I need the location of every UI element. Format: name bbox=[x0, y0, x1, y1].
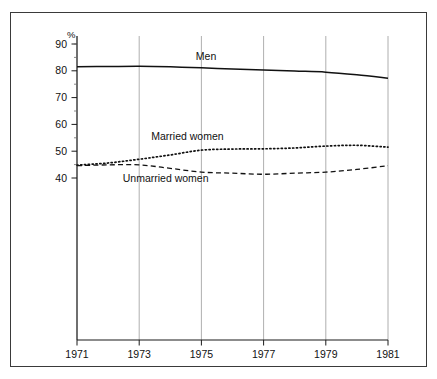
vertical-gridlines bbox=[77, 36, 388, 340]
data-series-group bbox=[77, 66, 388, 174]
y-tick-label-40: 40 bbox=[55, 172, 67, 184]
series-label-married-women: Married women bbox=[151, 130, 224, 142]
x-tick-label-1971: 1971 bbox=[65, 348, 89, 360]
x-tick-label-1973: 1973 bbox=[128, 348, 152, 360]
series-label-men: Men bbox=[196, 50, 217, 62]
series-inline-labels: MenMarried womenUnmarried women bbox=[123, 50, 224, 184]
series-line-married-women bbox=[77, 145, 388, 165]
x-tick-label-1981: 1981 bbox=[376, 348, 400, 360]
series-label-unmarried-women: Unmarried women bbox=[123, 172, 209, 184]
y-axis-ticks bbox=[72, 44, 78, 178]
y-axis-tick-labels: 405060708090 bbox=[55, 38, 67, 184]
y-tick-label-50: 50 bbox=[55, 145, 67, 157]
x-tick-label-1977: 1977 bbox=[252, 348, 276, 360]
y-tick-label-80: 80 bbox=[55, 64, 67, 76]
y-tick-label-70: 70 bbox=[55, 91, 67, 103]
x-tick-label-1979: 1979 bbox=[314, 348, 338, 360]
y-tick-label-90: 90 bbox=[55, 38, 67, 50]
y-tick-label-60: 60 bbox=[55, 118, 67, 130]
x-axis-ticks bbox=[77, 340, 388, 346]
y-axis-unit-label: % bbox=[67, 29, 76, 40]
series-line-men bbox=[77, 66, 388, 78]
x-axis: 197119731975197719791981 bbox=[65, 340, 400, 360]
x-tick-label-1975: 1975 bbox=[190, 348, 214, 360]
chart-figure: 405060708090 % 197119731975197719791981 … bbox=[0, 0, 437, 379]
line-chart-plot: 405060708090 % 197119731975197719791981 … bbox=[0, 0, 437, 379]
x-axis-tick-labels: 197119731975197719791981 bbox=[65, 348, 400, 360]
y-axis: 405060708090 % bbox=[55, 29, 77, 340]
